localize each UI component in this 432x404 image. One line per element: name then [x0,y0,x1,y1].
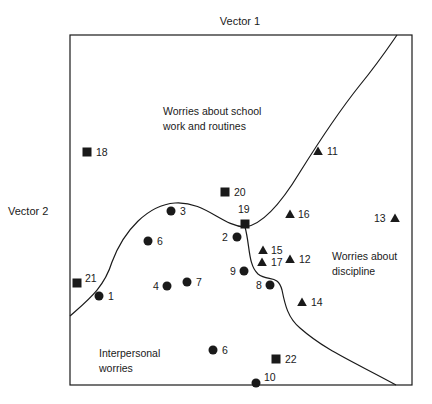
point-label: 17 [271,256,283,268]
circle-marker-icon [252,379,261,388]
square-marker-icon [241,220,250,229]
point-label: 12 [299,253,311,265]
point-label: 16 [298,208,310,220]
circle-marker-icon [240,267,249,276]
triangle-marker-icon [313,147,323,156]
point-label: 15 [271,244,283,256]
data-point-11: 11 [313,145,338,157]
data-point-14: 14 [297,296,323,308]
vector1-axis-label: Vector 1 [220,15,260,27]
point-label: 11 [327,145,338,157]
circle-marker-icon [209,346,218,355]
square-marker-icon [83,148,92,157]
data-point-21: 21 [73,272,97,288]
circle-marker-icon [144,237,153,246]
triangle-marker-icon [285,255,295,264]
circle-marker-icon [266,281,275,290]
data-point-15: 15 [258,244,283,256]
triangle-marker-icon [285,210,295,219]
point-label: 18 [96,146,108,158]
circle-marker-icon [233,233,242,242]
point-label: 6 [222,344,228,356]
data-point-9: 9 [230,265,249,277]
data-point-16: 16 [285,208,310,220]
point-label: 7 [196,276,202,288]
point-label: 9 [230,265,236,277]
data-point-6a: 6 [144,235,164,247]
triangle-marker-icon [390,214,400,223]
data-point-3: 3 [167,205,187,217]
region-label-interpersonal: Interpersonal worries [98,347,163,374]
data-point-19: 19 [238,203,250,229]
circle-marker-icon [167,207,176,216]
data-point-22: 22 [272,353,297,365]
point-label: 10 [264,371,276,383]
data-point-18: 18 [83,146,108,158]
point-label: 20 [234,186,246,198]
point-label: 1 [108,290,114,302]
square-marker-icon [221,188,230,197]
data-point-1: 1 [95,290,115,302]
point-label: 2 [222,231,228,243]
data-point-2: 2 [222,231,242,243]
data-point-4: 4 [153,280,172,292]
data-point-17: 17 [257,256,283,268]
data-point-6b: 6 [209,344,229,356]
point-label: 14 [311,296,323,308]
vector-plot: Vector 1 Vector 2 Worries about school w… [0,0,432,404]
region-label-discipline: Worries about discipline [332,250,400,277]
data-point-8: 8 [256,279,275,291]
data-point-12: 12 [285,253,311,265]
point-label: 21 [85,272,97,284]
circle-marker-icon [183,278,192,287]
point-label: 4 [153,280,159,292]
triangle-marker-icon [258,246,268,255]
square-marker-icon [272,355,281,364]
point-label: 6 [157,235,163,247]
point-label: 8 [256,279,262,291]
triangle-marker-icon [257,258,267,267]
point-label: 13 [374,212,386,224]
square-marker-icon [73,279,82,288]
circle-marker-icon [163,282,172,291]
point-label: 22 [285,353,297,365]
data-point-7: 7 [183,276,203,288]
triangle-marker-icon [297,298,307,307]
data-point-13: 13 [374,212,400,224]
vector2-axis-label: Vector 2 [8,205,48,217]
circle-marker-icon [95,292,104,301]
data-point-20: 20 [221,186,246,198]
region-label-school: Worries about school work and routines [162,105,264,132]
boundary-curve-right [245,35,397,227]
point-label: 19 [238,203,250,215]
point-label: 3 [180,205,186,217]
